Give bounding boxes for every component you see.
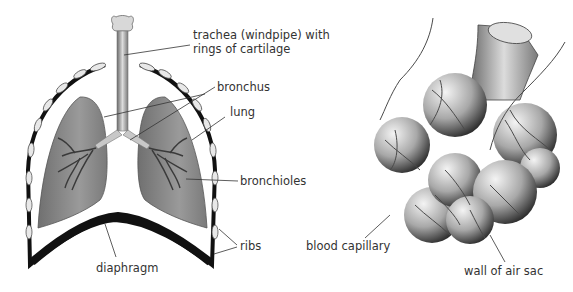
label-trachea-line1: trachea (windpipe) with: [193, 29, 330, 42]
label-diaphragm: diaphragm: [96, 262, 158, 275]
label-lung: lung: [230, 106, 255, 119]
label-wall-of-air-sac: wall of air sac: [464, 265, 543, 278]
label-blood-capillary: blood capillary: [306, 240, 390, 253]
label-trachea-line2: rings of cartilage: [193, 43, 290, 56]
label-bronchioles: bronchioles: [240, 175, 306, 188]
label-ribs: ribs: [240, 240, 261, 253]
alveoli-cluster: [374, 18, 565, 244]
label-bronchus: bronchus: [217, 81, 270, 94]
diaphragm: [32, 216, 210, 262]
